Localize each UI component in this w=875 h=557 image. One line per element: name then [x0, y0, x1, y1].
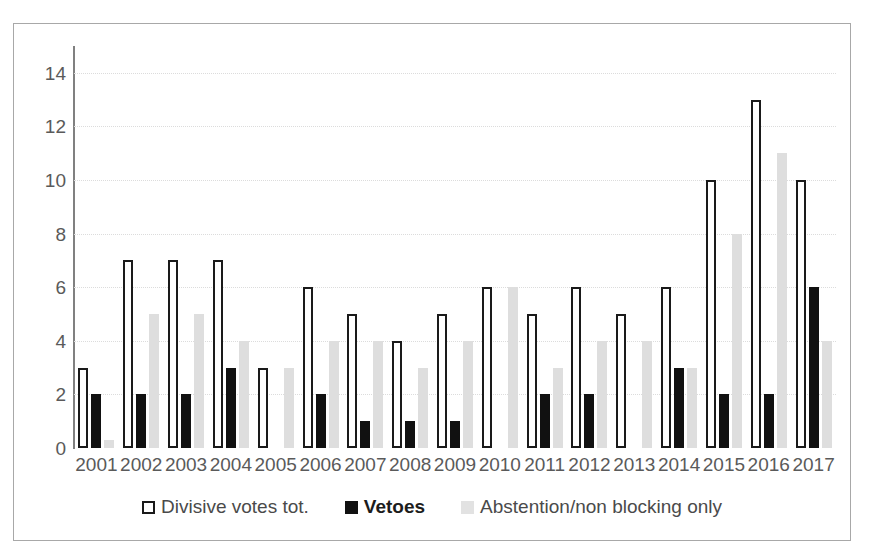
bar: [181, 394, 191, 448]
bar: [437, 314, 447, 448]
bar: [405, 421, 415, 448]
chart-legend: Divisive votes tot.VetoesAbstention/non …: [14, 496, 850, 518]
bar: [751, 100, 761, 448]
bar: [706, 180, 716, 448]
bar-group: [571, 46, 607, 448]
bar-group: [751, 46, 787, 448]
x-tick-label: 2002: [119, 454, 164, 477]
bar: [168, 260, 178, 448]
bar: [329, 341, 339, 448]
bar: [136, 394, 146, 448]
bar-group: [78, 46, 114, 448]
bar: [822, 341, 832, 448]
legend-item-label: Vetoes: [364, 496, 425, 518]
bar-group: [527, 46, 563, 448]
bar: [642, 341, 652, 448]
bar-group: [303, 46, 339, 448]
bar: [463, 341, 473, 448]
y-tick-label: 0: [26, 439, 66, 458]
bar-group: [123, 46, 159, 448]
x-tick-label: 2015: [702, 454, 747, 477]
x-tick-label: 2012: [567, 454, 612, 477]
x-tick-label: 2006: [298, 454, 343, 477]
x-axis-tick-labels: 2001200220032004200520062007200820092010…: [74, 454, 836, 484]
y-axis-tick-labels: 02468101214: [22, 46, 66, 448]
bar: [508, 287, 518, 448]
y-tick-label: 6: [26, 278, 66, 297]
bar-group: [213, 46, 249, 448]
x-tick-label: 2014: [657, 454, 702, 477]
bar: [373, 341, 383, 448]
bar-group: [482, 46, 518, 448]
bar: [226, 368, 236, 448]
bar-group: [392, 46, 428, 448]
y-tick-label: 12: [26, 117, 66, 136]
legend-item[interactable]: Vetoes: [345, 496, 425, 518]
bar: [553, 368, 563, 448]
legend-item-label: Abstention/non blocking only: [480, 496, 722, 518]
bar: [777, 153, 787, 448]
bar: [78, 368, 88, 448]
bar: [809, 287, 819, 448]
bar-group: [706, 46, 742, 448]
bar: [764, 394, 774, 448]
chart-frame: 02468101214 2001200220032004200520062007…: [13, 23, 851, 541]
legend-item[interactable]: Abstention/non blocking only: [461, 496, 722, 518]
bar: [303, 287, 313, 448]
y-tick-label: 14: [26, 64, 66, 83]
bar-group: [347, 46, 383, 448]
y-tick-label: 10: [26, 171, 66, 190]
bar: [540, 394, 550, 448]
x-tick-label: 2010: [477, 454, 522, 477]
x-tick-label: 2005: [253, 454, 298, 477]
y-tick-label: 4: [26, 332, 66, 351]
x-tick-label: 2003: [164, 454, 209, 477]
bar: [571, 287, 581, 448]
bar: [239, 341, 249, 448]
bar: [616, 314, 626, 448]
bar: [796, 180, 806, 448]
bar: [527, 314, 537, 448]
x-tick-label: 2004: [208, 454, 253, 477]
x-tick-label: 2013: [612, 454, 657, 477]
bar-group: [168, 46, 204, 448]
bar: [584, 394, 594, 448]
filled-black-square-icon: [345, 501, 358, 514]
bar-group: [661, 46, 697, 448]
x-tick-label: 2007: [343, 454, 388, 477]
bar: [91, 394, 101, 448]
bar: [213, 260, 223, 448]
bar-group: [258, 46, 294, 448]
bar: [258, 368, 268, 448]
bar-group: [616, 46, 652, 448]
bar-group: [437, 46, 473, 448]
plot-area: [74, 46, 836, 448]
bar: [719, 394, 729, 448]
bar: [418, 368, 428, 448]
x-tick-label: 2009: [433, 454, 478, 477]
x-tick-label: 2008: [388, 454, 433, 477]
bar: [392, 341, 402, 448]
bar: [316, 394, 326, 448]
x-tick-label: 2017: [791, 454, 836, 477]
legend-item-label: Divisive votes tot.: [161, 496, 309, 518]
bar: [123, 260, 133, 448]
filled-gray-square-icon: [461, 501, 474, 514]
y-tick-label: 8: [26, 225, 66, 244]
bar: [482, 287, 492, 448]
bar: [661, 287, 671, 448]
bar: [149, 314, 159, 448]
y-tick-label: 2: [26, 385, 66, 404]
bar: [194, 314, 204, 448]
bar: [450, 421, 460, 448]
x-tick-label: 2016: [746, 454, 791, 477]
bar: [284, 368, 294, 448]
outlined-white-square-icon: [142, 501, 155, 514]
bar: [347, 314, 357, 448]
bar-group: [796, 46, 832, 448]
bar: [687, 368, 697, 448]
bar: [104, 440, 114, 448]
legend-item[interactable]: Divisive votes tot.: [142, 496, 309, 518]
bar: [360, 421, 370, 448]
x-tick-label: 2011: [522, 454, 567, 477]
